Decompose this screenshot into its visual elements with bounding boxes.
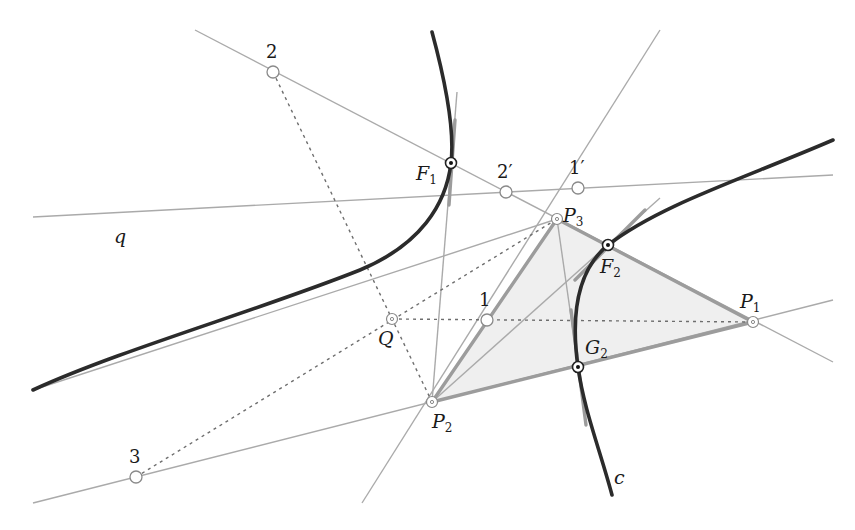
label-F1: F1 bbox=[415, 162, 437, 187]
point-1[interactable] bbox=[481, 314, 493, 326]
point-G2-dot bbox=[576, 365, 580, 369]
conic-construction-diagram: 2 2′ 1′ 1 3 F1 P3 F2 P1 G2 P2 Q q c bbox=[0, 0, 855, 530]
dotted-2-P2 bbox=[273, 72, 432, 402]
label-2: 2 bbox=[266, 41, 277, 62]
point-3[interactable] bbox=[130, 471, 142, 483]
label-curve-c: c bbox=[614, 466, 625, 488]
label-line-q: q bbox=[114, 225, 126, 247]
label-P2: P2 bbox=[431, 410, 452, 435]
triangle-fill bbox=[432, 219, 753, 402]
point-P3[interactable] bbox=[552, 214, 563, 225]
point-F1-dot bbox=[449, 161, 453, 165]
point-2prime[interactable] bbox=[500, 186, 512, 198]
label-P1: P1 bbox=[739, 290, 760, 315]
label-P3: P3 bbox=[562, 204, 583, 229]
point-2[interactable] bbox=[267, 66, 279, 78]
point-Q[interactable] bbox=[387, 314, 398, 325]
label-1: 1 bbox=[479, 289, 490, 310]
label-1prime: 1′ bbox=[569, 157, 585, 178]
label-2prime: 2′ bbox=[497, 161, 513, 182]
point-1prime[interactable] bbox=[572, 182, 584, 194]
label-Q: Q bbox=[378, 327, 394, 349]
point-P2[interactable] bbox=[427, 397, 438, 408]
label-3: 3 bbox=[129, 446, 140, 467]
point-F2-dot bbox=[606, 243, 610, 247]
point-P1[interactable] bbox=[748, 317, 759, 328]
